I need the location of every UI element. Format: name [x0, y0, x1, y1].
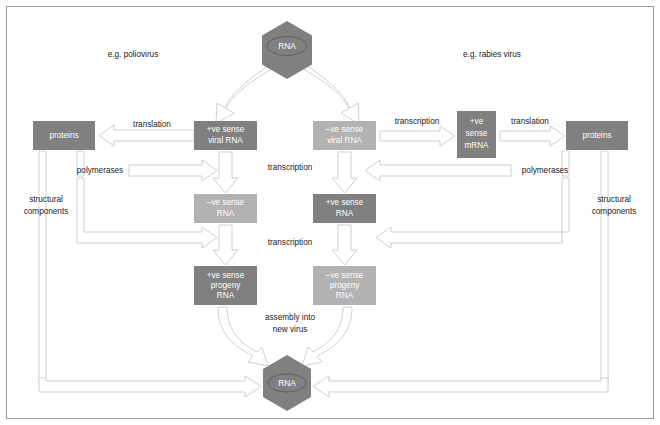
node-neg-sense-rna: –ve sense RNA: [194, 194, 257, 223]
arrow-translation-right: [500, 126, 565, 146]
arrow-rna-to-neg-viral: [298, 62, 359, 124]
label-structural-left-line1: structural: [29, 195, 63, 204]
node-pos-sense-rna-line1: +ve sense: [326, 198, 364, 207]
node-neg-progeny-line2: progeny: [330, 281, 360, 290]
node-pos-progeny-line1: +ve sense: [207, 271, 245, 280]
node-neg-progeny-line3: RNA: [336, 291, 354, 300]
diagram-canvas: RNA e.g. poliovirus e.g. rabies virus tr…: [0, 0, 660, 425]
node-neg-sense-rna-line1: –ve sense: [207, 198, 245, 207]
arrow-polymerases-right-lower: [376, 178, 569, 248]
label-polymerases-right: polymerases: [522, 166, 568, 175]
arrow-polymerases-right-upper: [365, 160, 511, 181]
node-pos-sense-rna-line2: RNA: [336, 209, 354, 218]
node-pos-mrna-line1: +ve: [470, 117, 484, 126]
node-pos-viral-rna-line2: viral RNA: [208, 136, 243, 145]
node-pos-viral-rna-line1: +ve sense: [207, 125, 245, 134]
label-example-right: e.g. rabies virus: [463, 50, 521, 59]
label-transcription-mid-upper: transcription: [268, 163, 313, 172]
node-neg-viral-rna-line2: viral RNA: [327, 136, 362, 145]
node-proteins-left: proteins: [33, 121, 95, 150]
node-proteins-right-label: proteins: [582, 131, 611, 140]
label-polymerases-left: polymerases: [77, 166, 123, 175]
virus-replication-diagram: RNA e.g. poliovirus e.g. rabies virus tr…: [0, 0, 660, 425]
arrow-transcription-to-mrna: [380, 126, 455, 146]
arrow-structural-left-to-rna: [39, 376, 261, 397]
node-neg-viral-rna-line1: –ve sense: [326, 125, 364, 134]
node-pos-mrna-line3: mRNA: [464, 141, 489, 150]
node-proteins-left-label: proteins: [49, 131, 78, 140]
node-neg-viral-rna: –ve sense viral RNA: [313, 121, 376, 150]
label-structural-right-line1: structural: [597, 195, 631, 204]
node-proteins-right: proteins: [566, 121, 628, 150]
arrow-pos-sense-to-neg-progeny: [332, 225, 357, 265]
node-pos-sense-rna: +ve sense RNA: [313, 194, 376, 223]
arrow-neg-sense-to-pos-progeny: [213, 225, 238, 265]
arrow-neg-viral-to-pos-sense: [332, 152, 357, 193]
node-neg-progeny-line1: –ve sense: [326, 271, 364, 280]
node-pos-mrna: +ve sense mRNA: [457, 111, 496, 158]
node-neg-sense-rna-line2: RNA: [217, 209, 235, 218]
node-rna-top-label: RNA: [278, 41, 296, 51]
label-translation-left: translation: [133, 120, 171, 129]
node-pos-progeny-rna: +ve sense progeny RNA: [194, 266, 257, 305]
arrow-structural-right-to-rna: [313, 376, 608, 397]
label-transcription-right: transcription: [395, 117, 440, 126]
label-example-left: e.g. poliovirus: [108, 50, 159, 59]
node-pos-viral-rna: +ve sense viral RNA: [194, 121, 257, 150]
line-structural-right: [601, 151, 608, 386]
node-pos-progeny-line2: progeny: [211, 281, 241, 290]
label-assembly-line1: assembly into: [265, 313, 316, 322]
node-rna-bottom-label: RNA: [278, 378, 296, 388]
arrow-polymerases-left-upper: [129, 160, 217, 181]
arrow-assembly-left: [218, 307, 268, 366]
arrow-rna-to-pos-viral: [216, 62, 277, 124]
label-structural-right-line2: components: [592, 207, 637, 216]
node-pos-mrna-line2: sense: [466, 129, 488, 138]
label-structural-left-line2: components: [24, 207, 69, 216]
node-neg-progeny-rna: –ve sense progeny RNA: [313, 266, 376, 305]
label-assembly-line2: new virus: [273, 325, 308, 334]
label-translation-right: translation: [511, 117, 549, 126]
arrow-pos-viral-to-neg-sense: [213, 152, 238, 193]
label-transcription-mid-lower: transcription: [268, 238, 313, 247]
line-structural-left: [39, 151, 46, 386]
node-pos-progeny-line3: RNA: [217, 291, 235, 300]
